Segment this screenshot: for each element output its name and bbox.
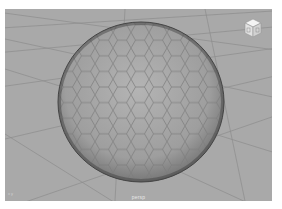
scene-render [5, 9, 272, 201]
view-cube-icon[interactable] [243, 17, 263, 39]
camera-label: persp [5, 194, 272, 200]
3d-viewport[interactable]: x y persp [5, 9, 272, 201]
